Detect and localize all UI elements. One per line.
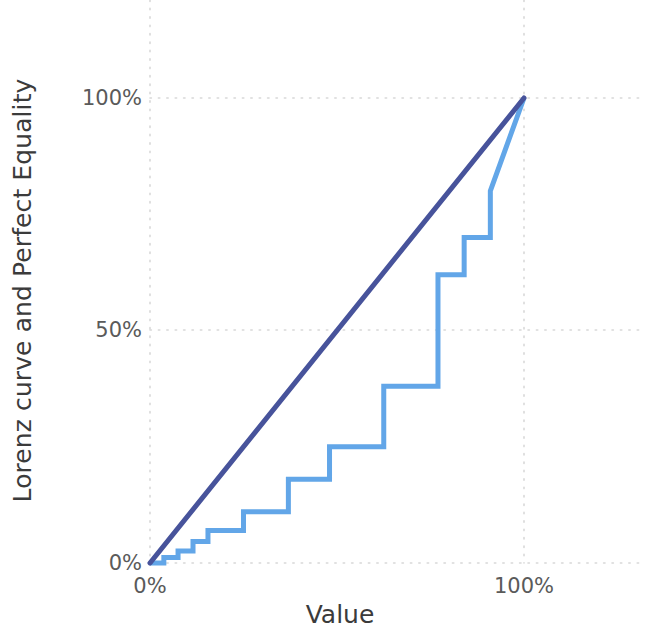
series-perfect-equality (150, 98, 524, 563)
plot-area (0, 0, 645, 635)
gridlines (150, 0, 645, 563)
chart-svg (0, 0, 645, 635)
lorenz-curve-figure: Lorenz curve and Perfect Equality 100% 5… (0, 0, 645, 635)
